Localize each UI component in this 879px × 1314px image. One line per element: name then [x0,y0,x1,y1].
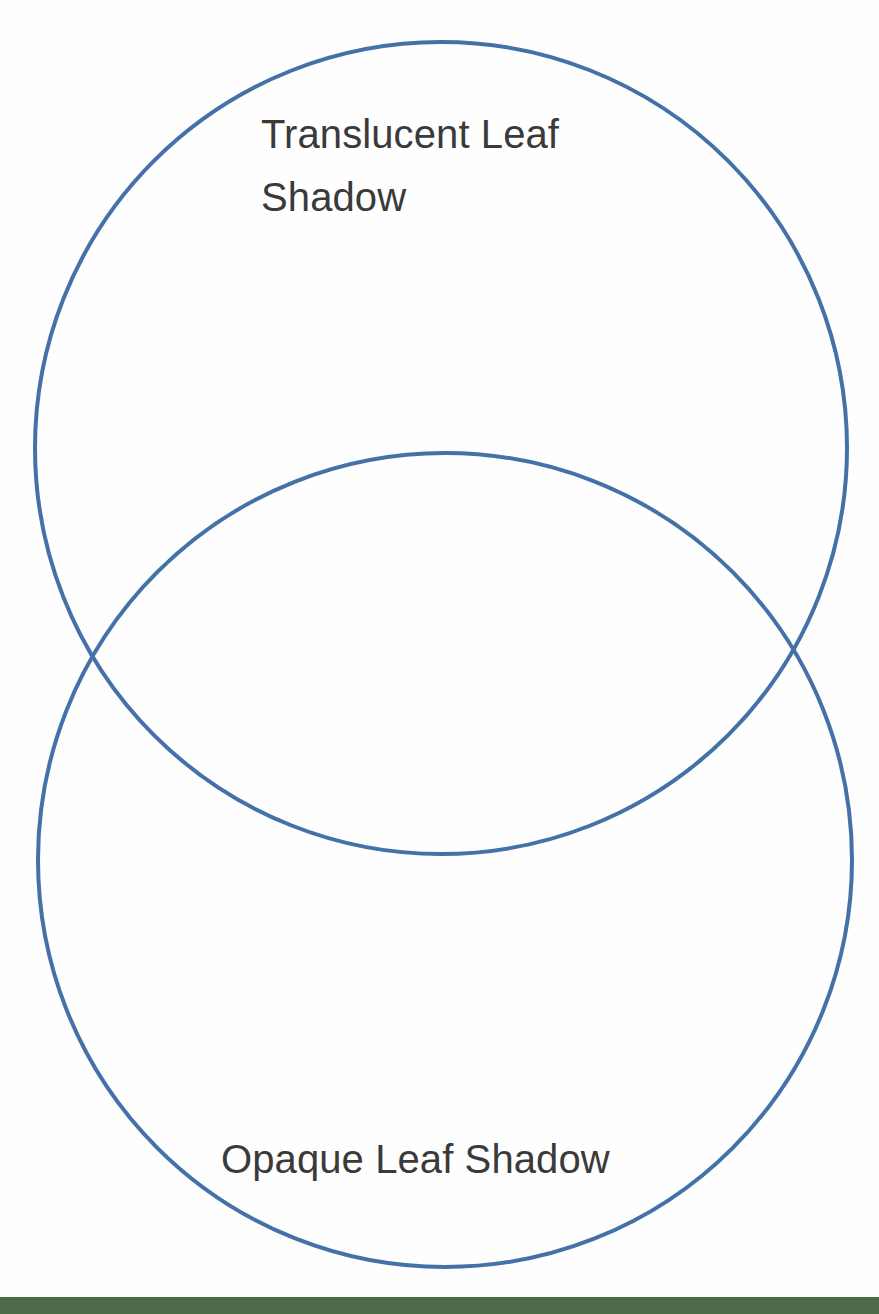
footer-bar [0,1297,879,1314]
venn-diagram-page: Translucent Leaf Shadow Opaque Leaf Shad… [0,0,879,1314]
venn-label-opaque-leaf-shadow: Opaque Leaf Shadow [221,1128,691,1191]
venn-label-translucent-leaf-shadow: Translucent Leaf Shadow [261,103,631,229]
